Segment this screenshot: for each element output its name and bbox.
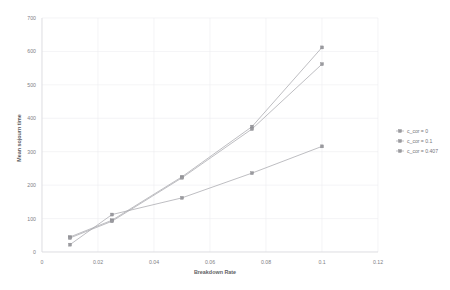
legend-label: c_cor = 0.407 (407, 148, 438, 154)
data-point-marker (321, 145, 324, 148)
data-point-marker (69, 243, 72, 246)
x-tick-label: 0.04 (149, 259, 159, 265)
y-tick-label: 700 (27, 15, 36, 21)
y-tick-label: 400 (27, 115, 36, 121)
data-point-marker (321, 46, 324, 49)
data-point-marker (181, 196, 184, 199)
line-chart: 00.020.040.060.080.10.12 010020030040050… (0, 0, 450, 290)
data-point-marker (111, 220, 114, 223)
legend-marker-icon (399, 150, 402, 153)
data-point-marker (251, 172, 254, 175)
x-axis-title: Breakdown Rate (194, 269, 236, 275)
x-tick-label: 0.08 (261, 259, 271, 265)
legend-label: c_cor = 0 (407, 128, 428, 134)
legend-label: c_cor = 0.1 (407, 138, 433, 144)
x-tick-label: 0.06 (205, 259, 215, 265)
x-tick-label: 0.02 (93, 259, 103, 265)
chart-background (0, 0, 450, 290)
data-point-marker (69, 236, 72, 239)
y-axis-title: Mean sojourn time (16, 114, 22, 162)
x-tick-label: 0 (41, 259, 44, 265)
data-point-marker (321, 63, 324, 66)
y-tick-label: 500 (27, 82, 36, 88)
legend-marker-icon (399, 130, 402, 133)
y-tick-label: 300 (27, 149, 36, 155)
y-tick-label: 100 (27, 216, 36, 222)
x-tick-label: 0.1 (318, 259, 325, 265)
data-point-marker (111, 213, 114, 216)
chart-container: 00.020.040.060.080.10.12 010020030040050… (0, 0, 450, 290)
legend-marker-icon (399, 140, 402, 143)
data-point-marker (251, 127, 254, 130)
y-tick-label: 0 (33, 249, 36, 255)
y-tick-label: 200 (27, 182, 36, 188)
data-point-marker (181, 176, 184, 179)
y-tick-label: 600 (27, 48, 36, 54)
x-tick-label: 0.12 (373, 259, 383, 265)
